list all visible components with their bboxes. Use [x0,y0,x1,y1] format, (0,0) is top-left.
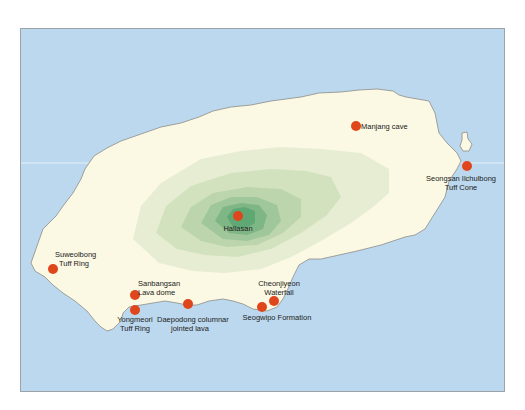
label-line: Tuff Ring [113,325,157,334]
site-label-seogwipo: Seogwipo Formation [239,314,315,323]
site-marker-manjang[interactable] [351,121,361,131]
label-line: Lava dome [138,289,180,298]
site-marker-yongmeori[interactable] [130,305,140,315]
site-label-cheonjiyeon: Cheonjiyeon Waterfall [255,280,303,297]
site-label-hallasan: Hallasan [218,225,258,234]
site-marker-cheonjiyeon[interactable] [269,296,279,306]
label-line: jointed lava [157,325,223,334]
label-line: Tuff Cone [421,184,501,193]
site-label-sanbangsan: Sanbangsan Lava dome [138,280,180,297]
label-line: Seogwipo Formation [243,313,312,322]
label-line: Tuff Ring [55,260,96,269]
label-line: Waterfall [255,289,303,298]
site-label-daepodong: Daepodong columnar jointed lava [157,316,223,333]
jeju-island-map [21,29,505,392]
site-label-suweolbong: Suweolbong Tuff Ring [55,251,96,268]
map-frame: Manjang cave Seongsan Ilchulbong Tuff Co… [20,28,505,392]
site-label-yongmeori: Yongmeori Tuff Ring [113,316,157,333]
site-marker-seongsan[interactable] [462,161,472,171]
site-label-seongsan: Seongsan Ilchulbong Tuff Cone [421,175,501,192]
label-line: Hallasan [223,224,252,233]
site-marker-daepodong[interactable] [183,299,193,309]
site-label-manjang: Manjang cave [361,123,408,132]
site-marker-hallasan[interactable] [233,211,243,221]
label-line: Manjang cave [361,122,408,131]
site-marker-seogwipo[interactable] [257,302,267,312]
